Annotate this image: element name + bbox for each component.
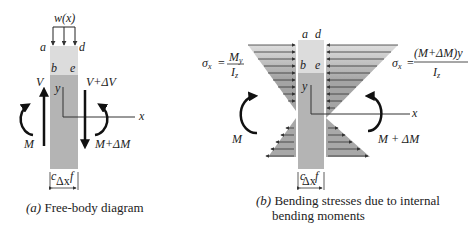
- corner-e: e: [315, 58, 321, 72]
- corner-f: f: [70, 169, 75, 183]
- corner-d: d: [79, 40, 86, 54]
- moment-right-label: M+ΔM: [94, 137, 131, 151]
- diagram-canvas: w(x) a d b e c f y x V V+ΔV M M+ΔM Δx (a…: [0, 0, 471, 229]
- corner-a: a: [302, 27, 308, 41]
- corner-d: d: [315, 27, 322, 41]
- moment-left-label: M: [23, 137, 35, 151]
- axis-x-label: x: [411, 106, 418, 120]
- svg-text:Iz: Iz: [432, 65, 441, 80]
- axis-x-label: x: [138, 109, 145, 123]
- caption-b-line1: (b) Bending stresses due to internal: [256, 193, 440, 208]
- moment-left-label: M: [231, 132, 243, 146]
- corner-a: a: [40, 40, 46, 54]
- moment-right-arrow-icon: [95, 105, 107, 135]
- svg-text:σx: σx: [392, 56, 402, 71]
- width-label: Δx: [56, 174, 70, 188]
- corner-b: b: [300, 58, 306, 72]
- moment-right-label: M + ΔM: [377, 132, 420, 146]
- svg-text:=: =: [407, 56, 414, 70]
- stress-right-tension: [326, 118, 370, 157]
- distributed-load-arrows: [53, 27, 75, 45]
- stress-left-tension: [268, 118, 296, 157]
- shear-right-label: V+ΔV: [86, 75, 117, 89]
- panel-a-free-body: w(x) a d b e c f y x V V+ΔV M M+ΔM Δx (a…: [21, 11, 145, 215]
- load-label: w(x): [54, 11, 75, 25]
- formula-right: σx = (M+ΔM)y Iz: [392, 46, 468, 80]
- caption-a: (a) Free-body diagram: [26, 200, 144, 215]
- svg-text:Iz: Iz: [230, 65, 239, 80]
- moment-left-arrow-icon: [21, 105, 33, 135]
- width-label: Δx: [302, 174, 316, 188]
- svg-text:σx: σx: [202, 56, 212, 71]
- caption-b-line2: bending moments: [272, 208, 365, 223]
- corner-f: f: [315, 169, 320, 183]
- formula-left: σx = My Iz: [202, 50, 244, 80]
- corner-e: e: [70, 61, 76, 75]
- panel-b-bending-stresses: a d b e c f y x σx = My Iz σx = (M+ΔM)y …: [202, 27, 468, 223]
- stress-right-compression: [326, 45, 398, 118]
- svg-text:(M+ΔM)y: (M+ΔM)y: [414, 46, 463, 60]
- svg-text:My: My: [228, 50, 243, 65]
- axis-y-label: y: [301, 79, 308, 93]
- svg-text:=: =: [218, 56, 225, 70]
- moment-left-arrow-icon: [241, 96, 257, 133]
- corner-b: b: [51, 61, 57, 75]
- shear-left-label: V: [36, 75, 45, 89]
- axis-y-label: y: [54, 81, 61, 95]
